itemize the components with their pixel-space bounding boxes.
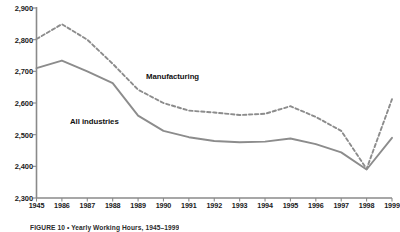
x-tick-label: 1995: [283, 201, 299, 210]
y-tick-label: 2,800: [15, 35, 33, 44]
figure-caption: FIGURE 10 • Yearly Working Hours, 1945–1…: [30, 224, 179, 232]
series-line-all-industries: [37, 61, 393, 170]
series-annotation-manufacturing: Manufacturing: [146, 72, 199, 81]
x-tick-label: 1989: [130, 201, 146, 210]
y-axis-tick-labels: 2,9002,8002,7002,6002,5002,4002,300: [0, 0, 33, 232]
x-tick-label: 1996: [308, 201, 324, 210]
y-tick-label: 2,700: [15, 67, 33, 76]
x-tick-label: 1987: [79, 201, 95, 210]
x-tick-label: 1997: [333, 201, 349, 210]
x-axis-tick-labels: 1945198619871988198919901991199219931994…: [0, 201, 400, 215]
chart-axes: [33, 7, 392, 202]
x-tick-label: 1998: [359, 201, 375, 210]
x-tick-label: 1988: [105, 201, 121, 210]
line-chart-plot: [0, 0, 400, 232]
x-tick-label: 1945: [29, 201, 45, 210]
x-tick-label: 1994: [257, 201, 273, 210]
x-tick-label: 1990: [156, 201, 172, 210]
series-line-manufacturing: [37, 24, 393, 169]
series-annotation-all-industries: All industries: [70, 117, 119, 126]
x-tick-label: 1986: [54, 201, 70, 210]
chart-figure: 2,9002,8002,7002,6002,5002,4002,300 1945…: [0, 0, 400, 232]
y-tick-label: 2,600: [15, 99, 33, 108]
y-tick-label: 2,400: [15, 162, 33, 171]
y-tick-label: 2,900: [15, 4, 33, 13]
x-tick-label: 1993: [232, 201, 248, 210]
x-tick-label: 1991: [181, 201, 197, 210]
chart-series: [37, 24, 393, 169]
x-tick-label: 1992: [206, 201, 222, 210]
y-tick-label: 2,500: [15, 130, 33, 139]
x-tick-label: 1999: [384, 201, 400, 210]
